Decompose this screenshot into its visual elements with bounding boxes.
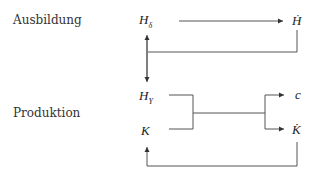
arrow-kdot-to-k [147, 142, 297, 166]
diagram-edges [0, 0, 315, 174]
bracket-inputs [169, 95, 193, 129]
line-hdot-feedback [148, 30, 297, 52]
